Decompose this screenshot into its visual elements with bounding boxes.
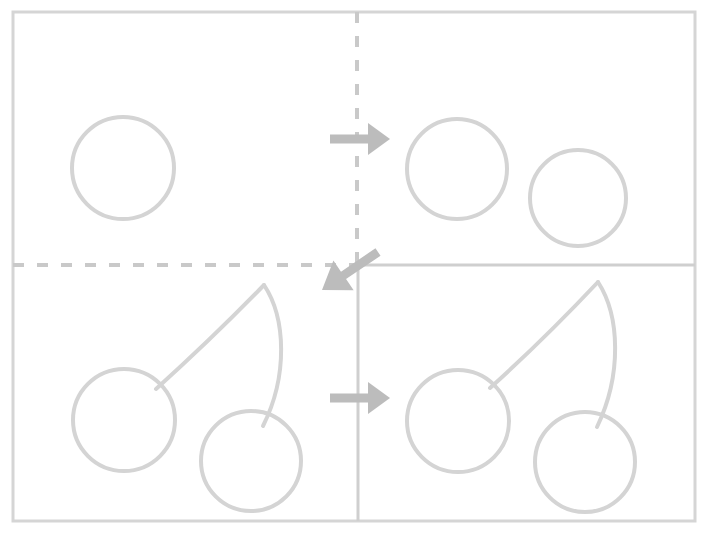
tutorial-canvas — [0, 0, 709, 535]
cherry-tutorial-diagram: Cherry drawing tutorial - four step pane… — [0, 0, 709, 535]
